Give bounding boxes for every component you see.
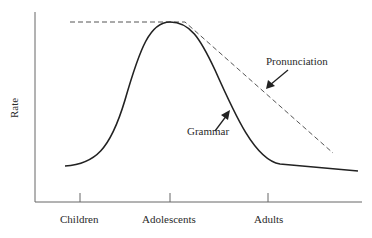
pronunciation-label: Pronunciation [266, 55, 328, 67]
x-tick-label-adults: Adults [254, 213, 283, 225]
grammar-curve [65, 22, 358, 171]
y-axis-label: Rate [8, 98, 20, 118]
pronunciation-arrow [266, 70, 288, 89]
grammar-label: Grammar [187, 125, 229, 137]
x-tick-label-children: Children [60, 213, 99, 225]
x-tick-label-adolescents: Adolescents [142, 213, 196, 225]
chart-canvas [0, 0, 372, 238]
